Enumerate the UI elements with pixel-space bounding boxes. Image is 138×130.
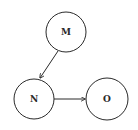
node-n: N — [14, 79, 54, 119]
diagram-canvas: M N O — [0, 0, 138, 130]
graph-svg: M N O — [0, 0, 138, 130]
arrow-m-n — [40, 51, 58, 78]
node-o-label: O — [103, 94, 111, 104]
node-n-label: N — [30, 94, 38, 104]
node-m-label: M — [61, 27, 71, 37]
node-o: O — [86, 78, 128, 120]
node-m: M — [46, 12, 86, 52]
edge-m-to-n — [40, 51, 58, 78]
